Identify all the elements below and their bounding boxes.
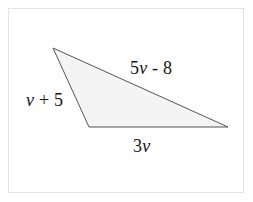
bottom-side-variable: v: [142, 136, 150, 156]
hypotenuse-coefficient: 5: [130, 58, 139, 78]
bottom-side-coefficient: 3: [133, 136, 142, 156]
left-side-operator: +: [34, 90, 54, 110]
left-side-variable: v: [26, 90, 34, 110]
hypotenuse-operator: -: [147, 58, 163, 78]
geometry-figure: 5v - 8 v + 5 3v: [0, 0, 253, 202]
left-side-constant: 5: [54, 90, 63, 110]
hypotenuse-constant: 8: [163, 58, 172, 78]
side-label-bottom: 3v: [133, 137, 150, 155]
side-label-hypotenuse: 5v - 8: [130, 59, 172, 77]
side-label-left: v + 5: [26, 91, 63, 109]
